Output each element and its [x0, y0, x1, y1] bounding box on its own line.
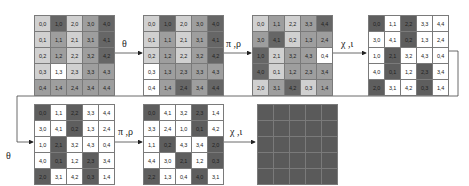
lane-cell: 3,4	[83, 80, 98, 95]
lane-cell: 0,2	[160, 137, 175, 152]
lane-cell: 0,3	[144, 64, 159, 79]
lane-cell: 1,3	[51, 64, 66, 79]
lane-cell	[274, 153, 289, 168]
lane-cell: 0,4	[176, 169, 191, 184]
lane-cell: 4,0	[99, 16, 114, 31]
lane-cell: 4,4	[433, 16, 448, 31]
lane-cell: 2,1	[51, 137, 66, 152]
lane-cell: 3,0	[83, 16, 98, 31]
lane-cell	[274, 137, 289, 152]
lane-cell: 0,0	[144, 16, 159, 31]
lane-cell: 1,3	[83, 121, 98, 136]
lane-cell: 4,4	[208, 80, 223, 95]
lane-cell	[306, 137, 321, 152]
lane-cell: 1,0	[35, 137, 50, 152]
lane-cell: 0,0	[35, 16, 50, 31]
lane-cell: 4,2	[401, 80, 416, 95]
lane-cell: 3,3	[83, 64, 98, 79]
arrow-label-theta: θ	[122, 38, 127, 49]
lane-cell	[322, 121, 337, 136]
lane-cell: 2,0	[176, 16, 191, 31]
lane-cell: 0,4	[99, 137, 114, 152]
lane-cell: 3,2	[83, 48, 98, 63]
lane-cell	[258, 153, 273, 168]
lane-cell: 0,4	[35, 80, 50, 95]
lane-cell: 1,2	[67, 153, 82, 168]
lane-cell	[258, 169, 273, 184]
lane-cell: 4,3	[176, 137, 191, 152]
lane-cell: 2,4	[433, 32, 448, 47]
lane-cell	[322, 105, 337, 120]
lane-cell: 1,0	[176, 121, 191, 136]
lane-cell: 3,0	[253, 32, 268, 47]
lane-cell: 3,0	[192, 16, 207, 31]
lane-cell: 2,3	[83, 153, 98, 168]
lane-cell: 0,4	[317, 48, 332, 63]
lane-cell: 1,1	[51, 32, 66, 47]
lane-cell	[306, 121, 321, 136]
arrow-label-chi-iota: χ ,ι	[341, 38, 353, 49]
lane-cell: 2,3	[417, 64, 432, 79]
state-after-theta: 0,01,02,03,04,00,11,12,13,14,10,21,22,23…	[143, 15, 224, 96]
lane-cell: 0,0	[144, 105, 159, 120]
lane-cell	[274, 169, 289, 184]
lane-cell: 3,3	[192, 64, 207, 79]
lane-cell: 1,2	[160, 48, 175, 63]
lane-cell	[290, 121, 305, 136]
lane-cell: 1,2	[401, 64, 416, 79]
lane-cell: 2,0	[369, 80, 384, 95]
lane-cell	[322, 137, 337, 152]
state-initial: 0,01,02,03,04,00,11,12,13,14,10,21,22,23…	[34, 15, 115, 96]
lane-cell	[258, 121, 273, 136]
lane-cell	[290, 153, 305, 168]
lane-cell: 1,2	[285, 64, 300, 79]
lane-cell: 4,3	[417, 48, 432, 63]
lane-cell: 4,2	[67, 169, 82, 184]
lane-cell: 1,2	[51, 48, 66, 63]
lane-cell: 0,4	[144, 80, 159, 95]
lane-cell: 0,1	[51, 153, 66, 168]
lane-cell: 2,4	[99, 121, 114, 136]
lane-cell: 0,0	[35, 105, 50, 120]
lane-cell: 0,2	[401, 32, 416, 47]
lane-cell: 3,2	[192, 48, 207, 63]
arrow-label-theta-2: θ	[6, 150, 11, 161]
lane-cell: 4,3	[301, 48, 316, 63]
lane-cell: 0,3	[208, 153, 223, 168]
lane-cell: 4,2	[208, 48, 223, 63]
lane-cell: 2,3	[301, 64, 316, 79]
lane-cell: 4,1	[51, 121, 66, 136]
lane-cell: 4,3	[208, 64, 223, 79]
state-after-theta-2: 0,01,12,23,34,43,04,10,21,32,41,02,13,24…	[34, 104, 115, 185]
lane-cell: 0,1	[192, 121, 207, 136]
lane-cell: 3,0	[369, 32, 384, 47]
state-after-chi-iota: 0,01,12,23,34,43,04,10,21,32,41,02,13,24…	[368, 15, 449, 96]
lane-cell: 2,0	[67, 16, 82, 31]
lane-cell: 3,4	[192, 80, 207, 95]
lane-cell: 2,0	[208, 137, 223, 152]
lane-cell: 4,0	[253, 64, 268, 79]
lane-cell: 4,4	[99, 105, 114, 120]
lane-cell: 1,4	[160, 80, 175, 95]
lane-cell: 3,0	[160, 153, 175, 168]
lane-cell: 4,4	[317, 16, 332, 31]
lane-cell: 3,3	[83, 105, 98, 120]
lane-cell: 0,4	[433, 48, 448, 63]
lane-cell: 2,3	[192, 105, 207, 120]
lane-cell: 2,1	[176, 153, 191, 168]
lane-cell: 3,4	[433, 64, 448, 79]
lane-cell: 0,1	[144, 32, 159, 47]
lane-cell: 2,1	[269, 48, 284, 63]
lane-cell: 3,0	[35, 121, 50, 136]
lane-cell: 3,1	[51, 169, 66, 184]
lane-cell: 2,2	[67, 105, 82, 120]
lane-cell: 0,2	[67, 121, 82, 136]
lane-cell: 3,1	[208, 169, 223, 184]
lane-cell: 3,2	[67, 137, 82, 152]
state-final	[257, 104, 338, 185]
lane-cell: 1,3	[160, 169, 175, 184]
arrow-label-pi-rho-2: π ,ρ	[118, 126, 133, 137]
lane-cell: 2,4	[317, 32, 332, 47]
lane-cell: 1,4	[208, 105, 223, 120]
lane-cell: 0,1	[35, 32, 50, 47]
